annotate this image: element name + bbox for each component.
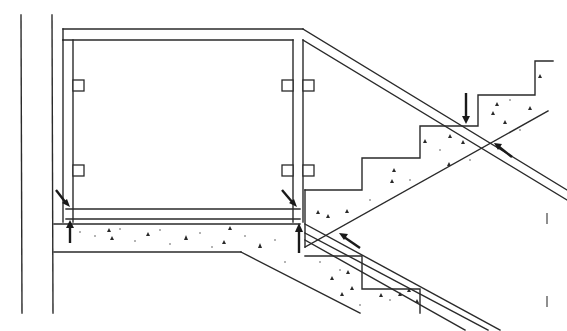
wall (21, 15, 53, 313)
clamp (303, 165, 314, 176)
concrete-fill (54, 224, 302, 252)
fixing-arrow (339, 233, 360, 248)
landing-slab (54, 209, 360, 313)
clamp (73, 165, 84, 176)
glass-clamps (73, 80, 314, 176)
lower-flight (305, 224, 500, 330)
clamp (282, 165, 293, 176)
clamp (303, 80, 314, 91)
left-post (63, 40, 73, 222)
fixing-arrow (282, 190, 297, 207)
upper-flight (305, 61, 553, 247)
clamp (282, 80, 293, 91)
fixing-arrow (462, 93, 470, 124)
middle-post (293, 40, 303, 222)
clamp (73, 80, 84, 91)
fixing-arrow (494, 143, 512, 157)
stair-balustrade-drawing: Glass balustrade section at stair landin… (0, 0, 567, 331)
